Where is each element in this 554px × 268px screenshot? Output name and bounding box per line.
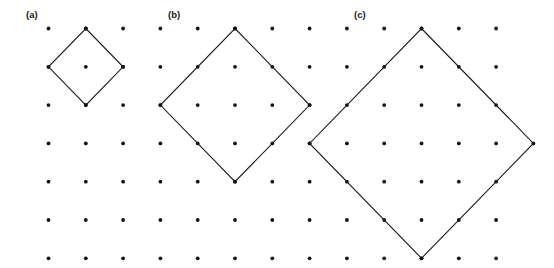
lattice-dot [196, 103, 200, 107]
lattice-dot [494, 65, 498, 69]
lattice-dot [494, 218, 498, 222]
diamond-vertex-dot [420, 27, 424, 31]
lattice-dot [233, 103, 237, 107]
lattice-dot [196, 218, 200, 222]
lattice-dot [159, 65, 163, 69]
lattice-dot [84, 180, 88, 184]
lattice-dot [308, 256, 312, 260]
panel-label-a: (a) [26, 10, 38, 20]
lattice-dot [345, 142, 349, 146]
lattice-dot [84, 218, 88, 222]
lattice-dot [270, 180, 274, 184]
lattice-dot [420, 65, 424, 69]
diamond-vertex-dot [84, 27, 88, 31]
lattice-dot [494, 142, 498, 146]
lattice-dot [233, 142, 237, 146]
diamond-vertex-dot [121, 65, 125, 69]
lattice-dot [121, 27, 125, 31]
panel-label-b: (b) [168, 10, 180, 20]
lattice-dot [159, 27, 163, 31]
lattice-dot [420, 103, 424, 107]
diamond-vertex-dot [308, 142, 312, 146]
lattice-dot [345, 256, 349, 260]
lattice-dot [308, 180, 312, 184]
diamond-vertex-dot [84, 103, 88, 107]
lattice-dot [308, 65, 312, 69]
lattice-dot [457, 27, 461, 31]
diamond-vertex-dot [308, 103, 312, 107]
lattice-dot [270, 27, 274, 31]
diamond-vertex-dot [233, 27, 237, 31]
lattice-dot [121, 218, 125, 222]
lattice-dot [196, 27, 200, 31]
lattice-dot [270, 218, 274, 222]
lattice-dot [47, 27, 51, 31]
lattice-dot [494, 256, 498, 260]
lattice-dot [159, 218, 163, 222]
lattice-dot [270, 256, 274, 260]
lattice-dot [457, 180, 461, 184]
figure-canvas [0, 0, 554, 268]
lattice-dot [420, 218, 424, 222]
lattice-dot [196, 256, 200, 260]
lattice-dot [345, 27, 349, 31]
lattice-dot [47, 218, 51, 222]
diamond-vertex-dot [233, 180, 237, 184]
diamond-vertex-dot [47, 65, 51, 69]
lattice-dot [420, 180, 424, 184]
lattice-dot [159, 256, 163, 260]
lattice-dot [382, 103, 386, 107]
lattice-dot [47, 180, 51, 184]
lattice-dot [233, 65, 237, 69]
diamond-vertex-dot [159, 103, 163, 107]
diamond-vertex-dot [420, 256, 424, 260]
lattice-dot [382, 256, 386, 260]
lattice-dot [457, 142, 461, 146]
lattice-dot [345, 65, 349, 69]
lattice-dot [345, 218, 349, 222]
diamond-shapes-group [47, 27, 536, 261]
lattice-dot [270, 103, 274, 107]
lattice-diamonds-figure: (a) (b) (c) [0, 0, 554, 268]
lattice-dot [308, 218, 312, 222]
lattice-dot [47, 142, 51, 146]
lattice-dot [457, 103, 461, 107]
panel-label-c: (c) [354, 10, 366, 20]
lattice-dot [196, 180, 200, 184]
lattice-dot [308, 27, 312, 31]
lattice-dot [47, 103, 51, 107]
lattice-dot [382, 180, 386, 184]
lattice-dot [382, 27, 386, 31]
lattice-dot [121, 256, 125, 260]
lattice-dot [233, 218, 237, 222]
lattice-dot [84, 65, 88, 69]
lattice-dot [494, 27, 498, 31]
lattice-dot [159, 142, 163, 146]
lattice-dot [47, 256, 51, 260]
lattice-dot [84, 256, 88, 260]
diamond-vertex-dot [532, 142, 536, 146]
lattice-dot [159, 180, 163, 184]
lattice-dot [420, 142, 424, 146]
lattice-dot [382, 142, 386, 146]
lattice-dot [84, 142, 88, 146]
lattice-dot [121, 180, 125, 184]
lattice-dot [457, 256, 461, 260]
lattice-dot [233, 256, 237, 260]
lattice-dot [121, 103, 125, 107]
lattice-dot [121, 142, 125, 146]
